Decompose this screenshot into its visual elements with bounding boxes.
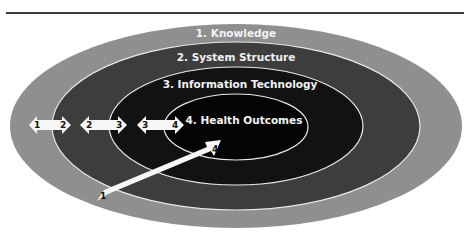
layer-health-outcomes: 4. Health Outcomes: [164, 94, 308, 160]
arrow-label-to: 2: [60, 120, 66, 130]
arrow-label-from: 2: [86, 120, 92, 130]
arrow-label-to: 4: [172, 120, 178, 130]
arrow-label-from: 1: [100, 191, 106, 201]
arrow-label-from: 1: [34, 120, 40, 130]
arrow-label-from: 3: [142, 120, 148, 130]
nested-ellipse-diagram: 1. Knowledge 2. System Structure 3. Info…: [0, 0, 475, 240]
layer-label-information-technology: 3. Information Technology: [163, 78, 318, 90]
layer-label-system-structure: 2. System Structure: [177, 51, 296, 63]
layer-label-health-outcomes: 4. Health Outcomes: [186, 114, 303, 126]
layer-label-knowledge: 1. Knowledge: [196, 27, 276, 39]
arrow-label-to: 4: [212, 144, 218, 154]
arrow-label-to: 3: [116, 120, 122, 130]
